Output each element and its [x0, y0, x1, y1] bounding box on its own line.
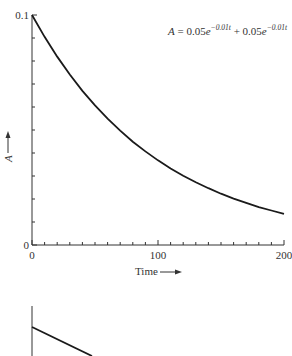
x-tick-label: 100 [150, 249, 167, 261]
axes [32, 15, 284, 245]
second-chart-line [32, 327, 92, 356]
eq-exp2: −0.01t [267, 23, 288, 32]
x-tick-label: 200 [276, 249, 292, 261]
tick-labels: 010020000.1 [15, 9, 292, 261]
eq-term2: + 0.05 [231, 25, 262, 37]
y-axis-arrow [6, 131, 11, 153]
eq-term1: = 0.05 [175, 25, 206, 37]
x-tick-label: 0 [29, 249, 35, 261]
eq-exp1: −0.01t [211, 23, 232, 32]
second-chart [32, 306, 92, 356]
y-tick-label: 0 [24, 239, 30, 251]
x-axis-arrow [160, 270, 182, 275]
y-tick-label: 0.1 [15, 9, 29, 21]
y-axis-title: A [2, 155, 14, 163]
chart-canvas: 010020000.1 A = 0.05e−0.01t + 0.05e−0.01… [0, 0, 292, 356]
ticks [32, 15, 284, 245]
series-line-A [32, 15, 284, 214]
x-axis-title: Time [135, 265, 158, 277]
y-axis-title-group: A [2, 155, 14, 163]
equation-annotation: A = 0.05e−0.01t + 0.05e−0.01t [167, 23, 288, 37]
